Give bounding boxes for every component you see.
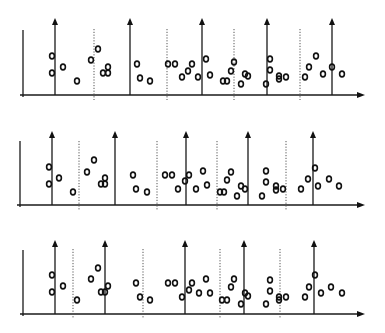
event-marker: [96, 265, 101, 271]
event-marker: [307, 284, 312, 290]
event-marker: [264, 179, 269, 185]
event-marker: [268, 288, 273, 294]
event-marker: [187, 172, 192, 178]
event-marker: [327, 176, 332, 182]
event-marker: [299, 186, 304, 192]
event-marker: [208, 72, 213, 78]
event-marker: [106, 70, 111, 76]
timeline-1: [20, 18, 365, 100]
event-arrowhead-icon: [52, 240, 58, 247]
event-marker: [268, 67, 273, 73]
event-marker: [220, 297, 225, 303]
event-marker: [180, 294, 185, 300]
event-marker: [197, 290, 202, 296]
diagram-canvas: [0, 0, 385, 333]
event-marker: [319, 290, 324, 296]
event-marker: [163, 172, 168, 178]
event-marker: [190, 280, 195, 286]
event-marker: [337, 183, 342, 189]
event-marker: [268, 277, 273, 283]
event-marker: [148, 78, 153, 84]
event-marker: [103, 175, 108, 181]
event-marker: [201, 168, 206, 174]
event-marker: [134, 280, 139, 286]
event-arrowhead-icon: [127, 18, 133, 25]
event-marker: [314, 53, 319, 59]
event-marker: [316, 183, 321, 189]
event-marker: [274, 183, 279, 189]
event-arrowhead-icon: [102, 240, 108, 247]
event-marker: [92, 157, 97, 163]
event-marker: [187, 287, 192, 293]
event-marker: [173, 280, 178, 286]
event-marker: [204, 56, 209, 62]
event-marker: [281, 186, 286, 192]
event-marker: [131, 172, 136, 178]
event-marker: [243, 186, 248, 192]
event-marker: [260, 193, 265, 199]
event-marker: [50, 289, 55, 295]
event-marker: [71, 189, 76, 195]
event-marker: [225, 297, 230, 303]
time-axis-arrowhead-icon: [357, 202, 365, 208]
event-marker: [75, 78, 80, 84]
event-marker: [205, 182, 210, 188]
event-marker: [138, 294, 143, 300]
event-marker: [239, 301, 244, 307]
event-marker: [190, 61, 195, 67]
event-arrowhead-icon: [49, 131, 55, 138]
event-marker: [225, 177, 230, 183]
event-marker: [103, 181, 108, 187]
event-marker: [176, 186, 181, 192]
event-marker: [186, 68, 191, 74]
event-marker: [166, 61, 171, 67]
event-marker: [306, 176, 311, 182]
event-arrowhead-icon: [199, 18, 205, 25]
event-marker: [50, 272, 55, 278]
event-marker: [183, 178, 188, 184]
event-marker: [303, 294, 308, 300]
event-marker: [264, 81, 269, 87]
event-arrowhead-icon: [264, 18, 270, 25]
event-marker: [85, 169, 90, 175]
event-marker: [134, 186, 139, 192]
event-marker: [313, 272, 318, 278]
event-arrowhead-icon: [311, 240, 317, 247]
event-marker: [225, 78, 230, 84]
event-marker: [166, 280, 171, 286]
event-arrowhead-icon: [52, 18, 58, 25]
event-marker: [47, 181, 52, 187]
event-marker: [75, 297, 80, 303]
event-marker: [135, 61, 140, 67]
event-marker: [235, 193, 240, 199]
event-marker: [264, 168, 269, 174]
event-marker: [170, 172, 175, 178]
event-marker: [89, 57, 94, 63]
event-marker: [264, 301, 269, 307]
event-marker: [106, 283, 111, 289]
event-marker: [313, 165, 318, 171]
event-arrowhead-icon: [245, 131, 251, 138]
event-marker: [194, 186, 199, 192]
event-marker: [196, 74, 201, 80]
event-marker: [101, 70, 106, 76]
event-marker: [284, 294, 289, 300]
event-marker: [138, 75, 143, 81]
event-marker: [208, 290, 213, 296]
event-marker: [268, 56, 273, 62]
time-axis-arrowhead-icon: [357, 92, 365, 98]
event-marker: [284, 74, 289, 80]
event-marker: [89, 276, 94, 282]
event-marker: [303, 74, 308, 80]
time-axis-arrowhead-icon: [357, 311, 365, 317]
event-marker: [340, 290, 345, 296]
event-marker: [222, 189, 227, 195]
event-marker: [50, 70, 55, 76]
event-marker: [340, 71, 345, 77]
event-marker: [50, 53, 55, 59]
event-marker: [232, 276, 237, 282]
event-marker: [145, 189, 150, 195]
event-marker: [106, 64, 111, 70]
event-marker: [57, 175, 62, 181]
event-arrowhead-icon: [112, 131, 118, 138]
